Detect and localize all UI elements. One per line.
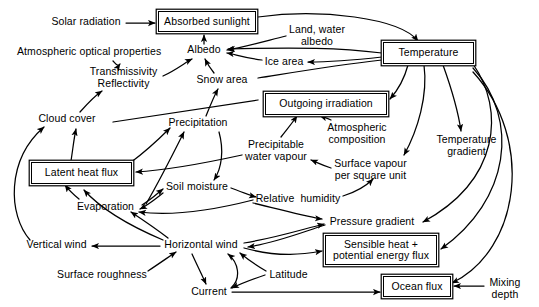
- edge-temperature-to-outgoing-irradiation: [390, 65, 408, 99]
- node-surface-roughness: Surface roughness: [57, 269, 147, 283]
- edge-latent-heat-flux-to-precipitation: [130, 128, 170, 163]
- node-label-cloud-cover: Cloud cover: [37, 113, 97, 125]
- node-sensible-heat[interactable]: Sensible heat + potential energy flux: [325, 235, 437, 265]
- node-atmos-composition: Atmospheric composition: [323, 122, 391, 146]
- node-label-current: Current: [189, 286, 229, 298]
- node-current: Current: [189, 286, 229, 300]
- edge-ice-area-to-albedo: [227, 53, 262, 60]
- node-precipitable-wv: Precipitable water vapour: [243, 139, 309, 163]
- node-ice-area: Ice area: [263, 56, 305, 70]
- node-label-soil-moisture: Soil moisture: [164, 181, 230, 193]
- node-label-vertical-wind: Vertical wind: [24, 239, 89, 251]
- node-label-surface-roughness: Surface roughness: [57, 269, 147, 281]
- edge-latent-heat-flux-to-cloud-cover: [71, 129, 76, 161]
- edge-pressure-gradient-to-horizontal-wind: [248, 225, 325, 247]
- climate-feedback-diagram: Solar radiationAbsorbed sunlightLand, wa…: [0, 0, 539, 307]
- node-surface-vapour: Surface vapour per square unit: [332, 158, 409, 182]
- edge-temperature-to-temperature-gradient: [443, 65, 461, 131]
- edge-atmos-composition-to-outgoing-irradiation: [320, 116, 331, 120]
- node-label-latent-heat-flux: Latent heat flux: [45, 167, 118, 179]
- edge-temperature-to-surface-vapour: [404, 65, 425, 155]
- node-label-horizontal-wind: Horizontal wind: [160, 239, 242, 251]
- node-label-temperature-gradient: Temperature gradient: [435, 134, 498, 157]
- node-label-evaporation: Evaporation: [75, 201, 136, 213]
- node-label-mixing-depth: Mixing depth: [486, 277, 524, 300]
- node-horizontal-wind: Horizontal wind: [160, 239, 242, 253]
- node-solar-radiation: Solar radiation: [48, 16, 124, 30]
- edge-temperature-to-sensible-heat: [441, 68, 502, 249]
- node-label-atmos-optical: Atmospheric optical properties: [17, 46, 160, 58]
- node-label-precipitable-wv: Precipitable water vapour: [243, 139, 309, 162]
- node-vertical-wind: Vertical wind: [24, 239, 89, 253]
- node-label-outgoing-irradiation: Outgoing irradiation: [279, 98, 373, 110]
- edge-horizontal-wind-to-sensible-heat: [244, 248, 322, 254]
- edge-surface-vapour-to-precipitable-wv: [311, 160, 331, 168]
- node-land-water-albedo: Land, water albedo: [285, 24, 349, 48]
- node-snow-area: Snow area: [196, 74, 248, 88]
- node-atmos-optical: Atmospheric optical properties: [17, 46, 160, 60]
- node-label-snow-area: Snow area: [196, 74, 248, 86]
- node-temperature-gradient: Temperature gradient: [435, 134, 498, 158]
- node-label-land-water-albedo: Land, water albedo: [285, 24, 349, 47]
- node-evaporation: Evaporation: [75, 201, 136, 215]
- edge-latitude-to-horizontal-wind: [240, 253, 266, 271]
- node-label-precipitation: Precipitation: [165, 117, 231, 129]
- node-relative-humidity: Relative humidity: [254, 193, 342, 207]
- edge-precipitation-to-soil-moisture: [214, 132, 222, 180]
- edge-transmissivity-to-albedo: [163, 59, 192, 76]
- edge-horizontal-wind-to-pressure-gradient: [244, 224, 324, 243]
- node-cloud-cover: Cloud cover: [37, 113, 97, 127]
- node-label-temperature: Temperature: [398, 47, 458, 59]
- edge-relative-humidity-to-evaporation: [139, 200, 253, 213]
- edge-evaporation-to-latent-heat-flux: [65, 185, 79, 199]
- node-label-latitude: Latitude: [267, 269, 310, 281]
- node-label-ocean-flux: Ocean flux: [391, 281, 442, 293]
- node-soil-moisture: Soil moisture: [164, 181, 230, 195]
- edge-precipitable-wv-to-latent-heat-flux: [136, 155, 242, 172]
- node-latitude: Latitude: [267, 269, 310, 283]
- edge-snow-area-to-albedo: [205, 59, 214, 73]
- node-outgoing-irradiation[interactable]: Outgoing irradiation: [265, 93, 387, 115]
- edge-current-to-horizontal-wind: [228, 254, 238, 288]
- node-label-albedo: Albedo: [185, 44, 223, 56]
- edge-temperature-to-ocean-flux: [452, 72, 512, 283]
- edge-temperature-to-albedo: [228, 48, 382, 53]
- node-pressure-gradient: Pressure gradient: [326, 216, 418, 230]
- node-label-ice-area: Ice area: [263, 56, 305, 68]
- node-ocean-flux[interactable]: Ocean flux: [383, 276, 451, 297]
- node-latent-heat-flux[interactable]: Latent heat flux: [31, 162, 132, 184]
- edge-cloud-cover-to-transmissivity: [80, 91, 102, 112]
- node-precipitation: Precipitation: [165, 117, 231, 131]
- node-label-transmissivity: Transmissivity Reflectivity: [85, 66, 162, 89]
- node-label-relative-humidity: Relative humidity: [254, 193, 342, 205]
- node-albedo: Albedo: [185, 44, 223, 58]
- edge-soil-moisture-to-relative-humidity: [231, 188, 256, 197]
- node-label-atmos-composition: Atmospheric composition: [323, 122, 391, 145]
- node-transmissivity: Transmissivity Reflectivity: [85, 66, 162, 90]
- node-absorbed-sunlight[interactable]: Absorbed sunlight: [158, 11, 256, 32]
- edge-horizontal-wind-to-latent-heat-flux: [84, 190, 163, 240]
- node-label-solar-radiation: Solar radiation: [48, 16, 124, 28]
- edge-precipitation-to-snow-area: [206, 89, 218, 116]
- edge-precipitable-wv-to-outgoing-irradiation: [281, 116, 297, 137]
- edge-surface-roughness-to-horizontal-wind: [148, 252, 176, 271]
- edge-horizontal-wind-to-current: [192, 254, 206, 284]
- node-label-absorbed-sunlight: Absorbed sunlight: [164, 16, 250, 28]
- node-temperature[interactable]: Temperature: [383, 42, 474, 64]
- node-label-pressure-gradient: Pressure gradient: [326, 216, 418, 228]
- node-mixing-depth: Mixing depth: [486, 277, 524, 301]
- node-label-sensible-heat: Sensible heat + potential energy flux: [333, 239, 429, 262]
- node-label-surface-vapour: Surface vapour per square unit: [332, 158, 409, 181]
